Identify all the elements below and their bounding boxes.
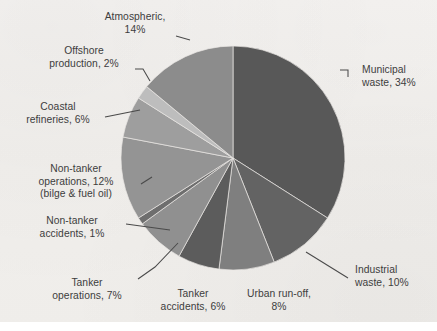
figure-bottom-margin <box>0 322 437 331</box>
pie-label-atmospheric: Atmospheric, 14% <box>97 11 173 36</box>
pie-label-tanker-operations: Tanker operations, 7% <box>37 277 137 302</box>
pie-chart-figure: Municipal waste, 34% Industrial waste, 1… <box>0 0 437 331</box>
pie-label-tanker-accidents: Tanker accidents, 6% <box>148 288 238 313</box>
leader-line-municipal-waste <box>340 70 348 77</box>
pie-label-municipal-waste: Municipal waste, 34% <box>362 64 416 89</box>
leader-line-industrial-waste <box>306 252 348 278</box>
pie-label-urban-runoff: Urban run-off, 8% <box>232 288 326 313</box>
pie-label-non-tanker-accidents: Non-tanker accidents, 1% <box>20 215 124 240</box>
pie-label-non-tanker-operations: Non-tanker operations, 12% (bilge & fuel… <box>13 163 139 201</box>
leader-line-atmospheric <box>176 36 190 40</box>
pie-slice-group <box>121 46 345 270</box>
leader-line-offshore-production <box>135 69 150 81</box>
pie-label-offshore-production: Offshore production, 2% <box>35 45 133 70</box>
pie-label-industrial-waste: Industrial waste, 10% <box>355 264 409 289</box>
pie-label-coastal-refineries: Coastal refineries, 6% <box>14 101 102 126</box>
